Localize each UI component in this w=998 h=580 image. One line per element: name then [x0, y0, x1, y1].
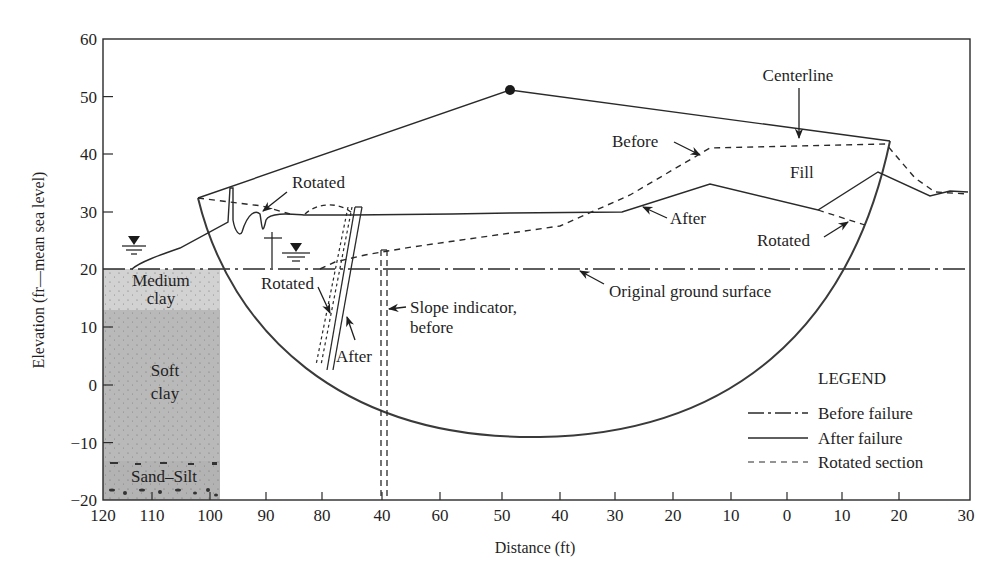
- piezometer-icon: [264, 232, 282, 268]
- rotated-right-label: Rotated: [757, 231, 810, 250]
- soft-clay-label: Soft: [151, 361, 180, 380]
- x-tick: 50: [494, 506, 511, 525]
- x-tick: 120: [90, 506, 116, 525]
- legend-rotated-label: Rotated section: [818, 453, 924, 472]
- x-tick: 80: [314, 506, 331, 525]
- y-tick: 0: [89, 376, 98, 395]
- legend-title: LEGEND: [818, 369, 886, 388]
- y-tick: 50: [80, 88, 97, 107]
- x-tick: 10: [834, 506, 851, 525]
- x-tick: 20: [891, 506, 908, 525]
- slope-indicator-after: [327, 207, 362, 370]
- sand-silt-label: Sand–Silt: [131, 467, 197, 486]
- x-tick: 90: [258, 506, 275, 525]
- x-tick: 10: [723, 506, 740, 525]
- x-tick: 30: [607, 506, 624, 525]
- x-tick: 40: [374, 506, 391, 525]
- after-indicator-label: After: [336, 347, 372, 366]
- slope-indicator-label-2: before: [410, 318, 453, 337]
- after-failure-surface: [132, 172, 968, 269]
- legend: LEGEND Before failure After failure Rota…: [748, 369, 924, 472]
- x-tick: 0: [783, 506, 792, 525]
- x-tick: 100: [197, 506, 223, 525]
- y-tick: −10: [70, 434, 97, 453]
- x-axis-title: Distance (ft): [495, 539, 575, 557]
- rotated-right-dashed: [818, 210, 865, 225]
- medium-clay-label: Medium: [132, 271, 190, 290]
- annotation-labels: Centerline Before Fill Rotated After Rot…: [131, 66, 833, 486]
- after-right-label: After: [670, 209, 706, 228]
- y-tick: 10: [80, 318, 97, 337]
- slope-failure-diagram: 60 50 40 30 20 10 0 −10 −20 120 110 100 …: [0, 0, 998, 580]
- slope-indicator-before: [381, 250, 387, 500]
- fill-label: Fill: [790, 163, 814, 182]
- soft-clay-label-2: clay: [151, 384, 180, 403]
- slope-indicator-label: Slope indicator,: [410, 298, 517, 317]
- water-table-left-icon: [122, 236, 146, 254]
- legend-before-label: Before failure: [818, 404, 913, 423]
- x-tick: 60: [432, 506, 449, 525]
- y-axis-labels: 60 50 40 30 20 10 0 −10 −20: [70, 30, 97, 510]
- y-tick: 40: [80, 145, 97, 164]
- circle-center-dot: [505, 85, 515, 95]
- rotated-left-label: Rotated: [261, 274, 314, 293]
- x-tick: 20: [665, 506, 682, 525]
- centerline-label: Centerline: [763, 66, 834, 85]
- medium-clay-label-2: clay: [147, 289, 176, 308]
- original-ground-label: Original ground surface: [609, 282, 771, 301]
- y-tick: 60: [80, 30, 97, 49]
- x-tick: 40: [552, 506, 569, 525]
- y-axis-title: Elevation (fr—mean sea level): [30, 172, 48, 369]
- water-table-right-icon: [282, 243, 310, 261]
- x-axis-ticks: [152, 492, 899, 500]
- x-tick: 110: [140, 506, 165, 525]
- x-axis-labels: 120 110 100 90 80 40 60 50 40 30 20 10 0…: [90, 506, 974, 525]
- rotated-hump-dashed: [305, 205, 352, 214]
- y-tick: 30: [80, 203, 97, 222]
- rotated-top-label: Rotated: [292, 173, 345, 192]
- x-tick: 30: [958, 506, 975, 525]
- legend-after-label: After failure: [818, 429, 902, 448]
- slope-indicator-rotated: [316, 207, 352, 365]
- before-label: Before: [612, 132, 658, 151]
- y-tick: 20: [80, 260, 97, 279]
